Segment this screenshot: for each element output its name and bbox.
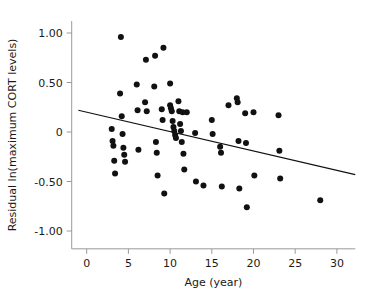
data-point <box>122 159 128 165</box>
data-point <box>210 131 216 137</box>
data-point <box>111 158 117 164</box>
data-point <box>119 113 125 119</box>
data-point <box>170 118 176 124</box>
data-point <box>236 185 242 191</box>
x-tick-label: 10 <box>163 257 177 270</box>
data-point <box>134 81 140 87</box>
data-point <box>235 99 241 105</box>
data-point <box>251 173 257 179</box>
data-point <box>219 183 225 189</box>
data-point <box>135 147 141 153</box>
y-tick-label: -0.50 <box>34 176 62 189</box>
y-tick-label: -1.00 <box>34 225 62 238</box>
x-tick-label: 20 <box>247 257 261 270</box>
data-point <box>192 130 198 136</box>
data-point <box>193 179 199 185</box>
y-tick-label: 1.00 <box>38 27 63 40</box>
data-point <box>167 80 173 86</box>
data-point <box>121 152 127 158</box>
data-point <box>179 139 185 145</box>
data-point <box>144 108 150 114</box>
data-point <box>178 128 184 134</box>
data-point <box>276 112 282 118</box>
x-axis-title: Age (year) <box>185 276 243 289</box>
data-point <box>181 167 187 173</box>
data-point <box>251 109 257 115</box>
data-point <box>218 150 224 156</box>
data-point <box>151 83 157 89</box>
data-point <box>160 117 166 123</box>
x-tick-label: 5 <box>125 257 132 270</box>
data-point <box>235 138 241 144</box>
data-point <box>118 34 124 40</box>
y-tick-label: 0.50 <box>38 77 63 90</box>
data-point <box>142 99 148 105</box>
data-point <box>175 98 181 104</box>
data-point <box>173 135 179 141</box>
data-point <box>209 117 215 123</box>
data-point <box>217 144 223 150</box>
data-point <box>317 197 323 203</box>
data-point <box>244 204 250 210</box>
data-point <box>143 57 149 63</box>
data-point <box>169 108 175 114</box>
data-point <box>200 182 206 188</box>
data-point <box>177 121 183 127</box>
x-tick-label: 30 <box>330 257 344 270</box>
data-point <box>120 145 126 151</box>
data-point <box>135 107 141 113</box>
x-tick-label: 0 <box>83 257 90 270</box>
data-point <box>159 106 165 112</box>
data-point <box>152 53 158 59</box>
data-point <box>161 190 167 196</box>
data-point <box>160 45 166 51</box>
data-point <box>225 102 231 108</box>
scatter-plot: 0510152025301.000.500-0.50-1.00Age (year… <box>0 0 370 302</box>
data-point <box>243 140 249 146</box>
data-point <box>276 148 282 154</box>
data-point <box>112 171 118 177</box>
data-point <box>155 173 161 179</box>
data-point <box>154 150 160 156</box>
data-point <box>109 126 115 132</box>
data-point <box>117 90 123 96</box>
y-tick-label: 0 <box>56 126 63 139</box>
data-point <box>110 143 116 149</box>
regression-line <box>78 110 355 174</box>
chart-figure: 0510152025301.000.500-0.50-1.00Age (year… <box>0 0 370 302</box>
data-point <box>120 131 126 137</box>
data-point <box>153 139 159 145</box>
data-point <box>180 109 186 115</box>
y-axis-title: Residual ln(maximum CORT levels) <box>6 39 19 232</box>
x-tick-label: 15 <box>205 257 219 270</box>
data-point <box>180 151 186 157</box>
x-tick-label: 25 <box>288 257 302 270</box>
data-point <box>277 176 283 182</box>
data-point <box>242 110 248 116</box>
